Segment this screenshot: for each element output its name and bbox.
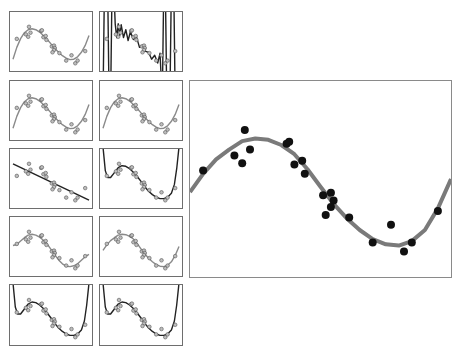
fit-panel-5 (9, 148, 93, 209)
fit-plot-4 (100, 81, 182, 140)
enlarged-fit-plot (190, 81, 451, 277)
fit-panel-3 (9, 80, 93, 141)
fit-plot-9 (10, 285, 92, 345)
fit-curve (103, 149, 179, 199)
fit-panel-1 (9, 11, 93, 72)
fit-panel-7 (9, 216, 93, 277)
fit-plot-2 (100, 12, 182, 71)
fit-panel-6 (99, 148, 183, 209)
fit-panel-2 (99, 11, 183, 72)
data-points (15, 298, 87, 339)
fit-plot-10 (100, 285, 182, 345)
fit-panel-10 (99, 284, 183, 346)
enlarged-fit-panel (189, 80, 452, 278)
fit-plot-7 (10, 217, 92, 276)
fit-curve (103, 285, 179, 335)
fit-plot-3 (10, 81, 92, 140)
fit-plot-5 (10, 149, 92, 208)
fit-curve (190, 139, 451, 246)
fit-plot-6 (100, 149, 182, 208)
data-points (15, 162, 87, 202)
fit-plot-8 (100, 217, 182, 276)
fit-panel-8 (99, 216, 183, 277)
data-points (105, 162, 177, 202)
fit-plot-1 (10, 12, 92, 71)
fit-curve (13, 285, 89, 335)
fit-panel-9 (9, 284, 93, 346)
fit-panel-4 (99, 80, 183, 141)
data-points (105, 298, 177, 339)
